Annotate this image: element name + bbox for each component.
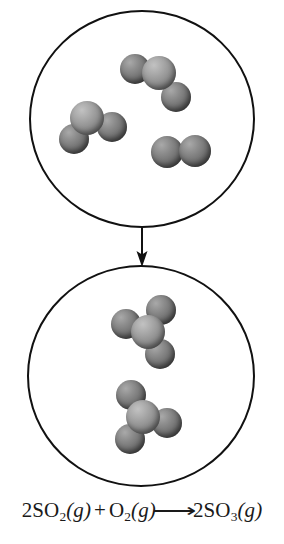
equation-plus: + (94, 498, 106, 522)
sulfur-atom-sphere (126, 400, 160, 434)
sulfur-atom-sphere (142, 56, 176, 90)
sulfur-atom-sphere (131, 315, 165, 349)
reactant-vessel (29, 10, 255, 228)
state-symbol: (g) (66, 498, 91, 522)
reaction-diagram: 2SO2(g)+O2(g)⟶2SO3(g) (0, 0, 284, 544)
oxygen-atom-sphere (179, 135, 211, 167)
equation-reactant-1: 2SO2(g) (22, 498, 91, 522)
formula: O (109, 498, 124, 522)
state-symbol: (g) (237, 498, 262, 522)
formula: SO (32, 498, 59, 522)
chemical-equation: 2SO2(g)+O2(g)⟶2SO3(g) (0, 498, 284, 525)
equation-product: 2SO3(g) (193, 498, 262, 522)
equation-arrow-icon: ⟶ (152, 498, 197, 522)
sulfur-atom-sphere (70, 101, 104, 135)
formula: SO (204, 498, 231, 522)
coefficient: 2 (22, 498, 33, 522)
reaction-progress-arrow (137, 228, 148, 267)
product-vessel (27, 265, 255, 487)
equation-reactant-2: O2(g) (109, 498, 156, 522)
